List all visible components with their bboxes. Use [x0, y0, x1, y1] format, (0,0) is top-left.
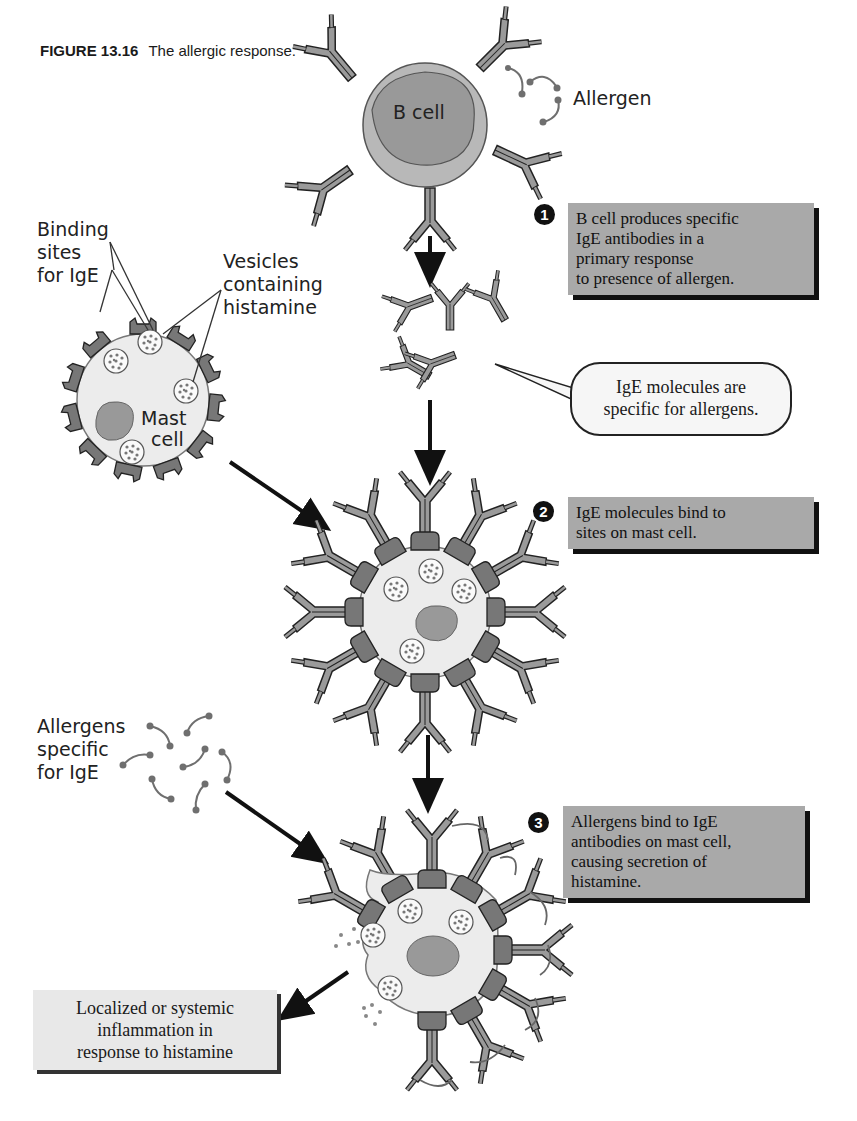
step-line: to presence of allergen. [576, 269, 806, 289]
label-binding-sites: Binding sites for IgE [37, 218, 109, 287]
step-line: IgE antibodies in a [576, 229, 806, 249]
allergen-icons-free [120, 713, 231, 814]
step-line: causing secretion of [571, 852, 797, 872]
label-allergen: Allergen [573, 87, 652, 110]
label-line: sites [37, 241, 109, 264]
label-line: containing [223, 273, 323, 296]
outcome-line: inflammation in [37, 1019, 273, 1041]
allergen-icons-top [505, 65, 562, 126]
step-3-badge: 3 [528, 812, 549, 833]
label-line: Binding [37, 218, 109, 241]
step-2-box: IgE molecules bind to sites on mast cell… [568, 497, 814, 549]
free-ige-antibodies [380, 270, 521, 392]
label-allergens-specific: Allergens specific for IgE [37, 715, 125, 784]
allergic-response-diagram [0, 0, 857, 1121]
label-mast-cell: Mast cell [141, 408, 186, 450]
callout-pointer [495, 364, 582, 404]
label-line: cell [141, 429, 186, 450]
label-line: Mast [141, 408, 186, 429]
step-line: histamine. [571, 872, 797, 892]
label-line: for IgE [37, 761, 125, 784]
step-2-badge: 2 [533, 501, 554, 522]
arrow-allergens-to-cell [226, 792, 316, 855]
b-cell [285, 6, 562, 250]
mast-cell-sensitized [285, 472, 565, 752]
step-1-badge: 1 [534, 204, 555, 225]
callout-ige-specific: IgE molecules are specific for allergens… [570, 362, 792, 436]
label-line: Allergens [37, 715, 125, 738]
step-line: antibodies on mast cell, [571, 832, 797, 852]
label-line: for IgE [37, 264, 109, 287]
label-line: Vesicles [223, 250, 323, 273]
arrow-to-inflammation [290, 972, 348, 1012]
step-3-box: Allergens bind to IgE antibodies on mast… [563, 806, 805, 898]
step-line: IgE molecules bind to [576, 503, 806, 523]
mast-cell-degranulating [298, 810, 572, 1090]
step-line: sites on mast cell. [576, 523, 806, 543]
label-line: histamine [223, 296, 323, 319]
step-1-box: B cell produces specific IgE antibodies … [568, 203, 814, 295]
label-line: specific [37, 738, 125, 761]
label-b-cell: B cell [393, 101, 445, 124]
step-line: primary response [576, 249, 806, 269]
outcome-line: Localized or systemic [37, 997, 273, 1019]
step-line: Allergens bind to IgE [571, 812, 797, 832]
outcome-box: Localized or systemic inflammation in re… [33, 990, 277, 1070]
arrow-to-sensitized [230, 462, 318, 522]
callout-line: IgE molecules are [572, 376, 790, 398]
label-vesicles: Vesicles containing histamine [223, 250, 323, 319]
outcome-line: response to histamine [37, 1041, 273, 1063]
step-line: B cell produces specific [576, 209, 806, 229]
callout-line: specific for allergens. [572, 398, 790, 420]
mast-cell-unbound [60, 318, 226, 483]
